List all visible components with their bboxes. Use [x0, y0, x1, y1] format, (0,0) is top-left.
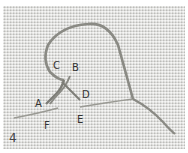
stitch-diagram-photo: C B D A E F 4 [0, 0, 188, 153]
border [185, 0, 188, 153]
thread-path [0, 0, 188, 153]
label-b: B [72, 63, 79, 73]
label-f: F [44, 121, 50, 131]
border [0, 0, 188, 6]
label-d: D [82, 90, 90, 100]
label-a: A [35, 99, 42, 109]
border [0, 149, 188, 153]
step-number: 4 [9, 132, 17, 144]
border [0, 0, 3, 153]
label-e: E [77, 115, 83, 125]
label-c: C [53, 61, 60, 71]
